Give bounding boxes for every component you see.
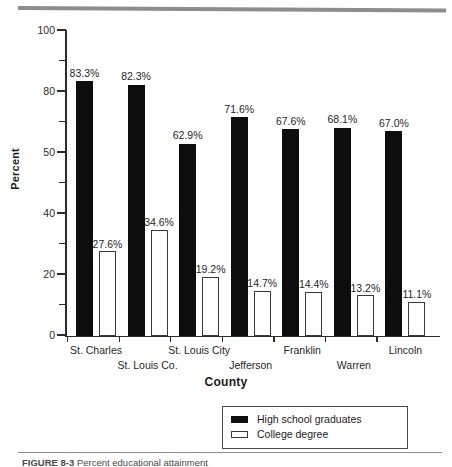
bar-college-degree[interactable]: 19.2% [202, 277, 219, 336]
bar-value-label: 67.6% [276, 116, 306, 127]
bar-group: 67.6%14.4% [282, 31, 322, 336]
bar-high-school-graduates[interactable]: 67.6% [282, 129, 299, 335]
bar-high-school-graduates[interactable]: 67.0% [385, 131, 402, 335]
x-tick-0 [67, 337, 68, 342]
legend-swatch-hollow [231, 431, 248, 438]
bar-group: 67.0%11.1% [385, 31, 425, 336]
chart-legend: High school graduates College degree [222, 406, 408, 449]
bar-value-label: 34.6% [144, 217, 174, 228]
bar-high-school-graduates[interactable]: 71.6% [231, 117, 248, 335]
bar-value-label: 83.3% [70, 68, 100, 79]
figure-container: Percent 020405080100 83.3%27.6%82.3%34.6… [0, 0, 452, 467]
bar-college-degree[interactable]: 11.1% [408, 302, 425, 336]
figure-caption-text: Percent educational attainment [77, 458, 208, 467]
bar-group: 83.3%27.6% [76, 31, 116, 336]
x-category-label: Franklin [284, 345, 321, 356]
plot-area: 020405080100 83.3%27.6%82.3%34.6%62.9%19… [65, 30, 440, 337]
y-tick-label-20: 20 [43, 269, 55, 280]
bar-value-label: 27.6% [93, 239, 123, 250]
x-category-label: Warren [337, 360, 371, 371]
legend-label-college-degree: College degree [257, 429, 328, 440]
legend-item-high-school-graduates: High school graduates [231, 412, 399, 427]
bar-high-school-graduates[interactable]: 68.1% [334, 128, 351, 336]
bar-value-label: 62.9% [173, 130, 203, 141]
x-tick-2 [170, 337, 171, 342]
bar-value-label: 71.6% [224, 104, 254, 115]
figure-caption: FIGURE 8-3 Percent educational attainmen… [22, 458, 442, 467]
x-tick-3 [222, 337, 223, 342]
figure-caption-label: FIGURE 8-3 [22, 458, 74, 467]
y-tick-70 [59, 121, 66, 122]
y-tick-label-80: 80 [43, 86, 55, 97]
x-category-label: St. Charles [70, 345, 122, 356]
bar-college-degree[interactable]: 27.6% [99, 251, 116, 335]
x-category-label: Lincoln [389, 345, 422, 356]
bar-value-label: 14.4% [299, 279, 329, 290]
y-tick-0 [57, 334, 66, 335]
top-divider-rule [18, 6, 446, 13]
y-tick-label-40: 40 [43, 208, 55, 219]
y-axis-title: Percent [9, 148, 29, 190]
y-tick-10 [59, 304, 66, 305]
legend-item-college-degree: College degree [231, 427, 399, 442]
bar-college-degree[interactable]: 34.6% [151, 230, 168, 336]
x-category-label: St. Louis Co. [118, 360, 178, 371]
bar-high-school-graduates[interactable]: 83.3% [76, 81, 93, 335]
x-tick-5 [325, 337, 326, 342]
y-tick-30 [59, 243, 66, 244]
y-axis-line [65, 30, 67, 337]
bar-value-label: 13.2% [350, 283, 380, 294]
bar-value-label: 68.1% [327, 114, 357, 125]
bar-group: 62.9%19.2% [179, 31, 219, 336]
bar-value-label: 11.1% [402, 289, 431, 300]
bar-high-school-graduates[interactable]: 62.9% [179, 144, 196, 336]
bar-college-degree[interactable]: 14.7% [254, 291, 271, 336]
x-category-label: Jefferson [229, 360, 272, 371]
bar-value-label: 67.0% [379, 118, 409, 129]
y-tick-20 [57, 273, 66, 274]
bar-group: 71.6%14.7% [231, 31, 271, 336]
x-axis-title: County [0, 375, 452, 389]
bar-high-school-graduates[interactable]: 82.3% [128, 85, 145, 336]
y-tick-90 [59, 60, 66, 61]
y-tick-80 [57, 90, 66, 91]
bar-college-degree[interactable]: 14.4% [305, 292, 322, 336]
y-tick-60 [57, 151, 66, 152]
y-tick-40 [57, 212, 66, 213]
bar-group: 82.3%34.6% [128, 31, 168, 336]
x-axis-line [65, 336, 440, 338]
x-tick-1 [119, 337, 120, 342]
y-tick-label-0: 0 [49, 330, 55, 341]
x-tick-4 [273, 337, 274, 342]
bar-value-label: 82.3% [121, 71, 151, 82]
bar-value-label: 14.7% [247, 278, 277, 289]
x-tick-6 [376, 337, 377, 342]
legend-label-high-school-graduates: High school graduates [257, 414, 361, 425]
bar-group: 68.1%13.2% [334, 31, 374, 336]
legend-swatch-filled [231, 416, 248, 423]
x-category-label: St. Louis City [168, 345, 230, 356]
y-tick-label-60: 50 [43, 147, 55, 158]
bar-college-degree[interactable]: 13.2% [357, 295, 374, 335]
y-tick-50 [59, 182, 66, 183]
y-tick-100 [57, 29, 66, 30]
bar-value-label: 19.2% [196, 264, 226, 275]
y-tick-label-100: 100 [37, 25, 55, 36]
caption-divider-rule [18, 452, 442, 453]
